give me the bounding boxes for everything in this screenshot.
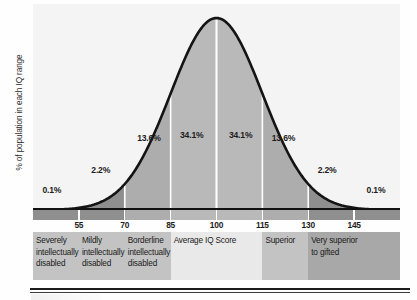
category-very-superior-to-gifted: Very superiorto gifted [308, 232, 400, 280]
category-average-iq-score: Average IQ Score [171, 232, 263, 280]
percent-annotation-5: 34.1% [229, 130, 252, 140]
percent-annotation-4: 34.1% [180, 130, 203, 140]
category-borderline-intellectually-disabled: Borderlineintellectuallydisabled [125, 232, 171, 280]
percent-annotation-6: 13.6% [272, 133, 295, 143]
axis-tick-mark-145 [353, 208, 354, 220]
axis-segment-40-55 [33, 208, 79, 220]
curve-band-100-115 [217, 18, 263, 210]
footer-rule-thick [30, 288, 410, 290]
x-tick-85: 85 [166, 220, 175, 230]
category-label-line: disabled [36, 258, 79, 270]
x-tick-55: 55 [74, 220, 83, 230]
x-tick-145: 145 [347, 220, 360, 230]
percent-annotation-1: 0.1% [42, 185, 61, 195]
category-label-line: to gifted [311, 247, 400, 259]
y-axis-label-text: % of population in each IQ range [15, 54, 24, 170]
percent-annotation-2: 2.2% [91, 165, 110, 175]
axis-tick-mark-130 [308, 208, 309, 220]
percent-annotation-8: 0.1% [367, 185, 386, 195]
x-axis-strip [33, 208, 400, 220]
category-mildly-intellectually-disabled: Mildlyintellectuallydisabled [79, 232, 125, 280]
category-label-line: Severely [36, 235, 79, 247]
footer-rule-thin [30, 292, 410, 293]
category-label-line: Superior [265, 235, 308, 247]
category-label-line: intellectually [128, 247, 171, 259]
category-label-line: disabled [128, 258, 171, 270]
x-tick-115: 115 [256, 220, 269, 230]
y-axis-label: % of population in each IQ range [12, 22, 26, 202]
category-label-line: Average IQ Score [174, 235, 263, 247]
axis-tick-mark-55 [78, 208, 79, 220]
x-tick-70: 70 [120, 220, 129, 230]
axis-segment-100-115 [217, 208, 263, 220]
category-label-line: Very superior [311, 235, 400, 247]
axis-segment-55-70 [79, 208, 125, 220]
axis-tick-mark-100 [216, 208, 217, 220]
axis-segment-130-145 [308, 208, 354, 220]
x-tick-100: 100 [210, 220, 223, 230]
category-label-band: SeverelyintellectuallydisabledMildlyinte… [33, 232, 400, 280]
category-label-line: Mildly [82, 235, 125, 247]
axis-tick-mark-70 [124, 208, 125, 220]
category-severely-intellectually-disabled: Severelyintellectuallydisabled [33, 232, 79, 280]
axis-tick-mark-115 [262, 208, 263, 220]
bell-curve-svg [33, 4, 400, 210]
x-tick-130: 130 [302, 220, 315, 230]
curve-band-85-100 [171, 18, 217, 210]
axis-segment-85-100 [171, 208, 217, 220]
category-label-line: intellectually [36, 247, 79, 259]
category-superior: Superior [262, 232, 308, 280]
category-label-line: intellectually [82, 247, 125, 259]
category-label-line: Borderline [128, 235, 171, 247]
axis-baseline [33, 208, 400, 210]
axis-segment-70-85 [125, 208, 171, 220]
clipped-caption-artifact [31, 294, 101, 300]
plot-panel: 0.1%2.2%13.6%34.1%34.1%13.6%2.2%0.1% [33, 4, 400, 210]
percent-annotation-3: 13.6% [137, 133, 160, 143]
axis-segment-115-130 [262, 208, 308, 220]
category-label-line: disabled [82, 258, 125, 270]
axis-tick-mark-85 [170, 208, 171, 220]
axis-segment-145-160 [354, 208, 400, 220]
x-axis-tick-labels: 557085100115130145 [33, 220, 400, 232]
percent-annotation-7: 2.2% [318, 165, 337, 175]
iq-distribution-figure: % of population in each IQ range 0.1%2.2… [0, 0, 417, 300]
